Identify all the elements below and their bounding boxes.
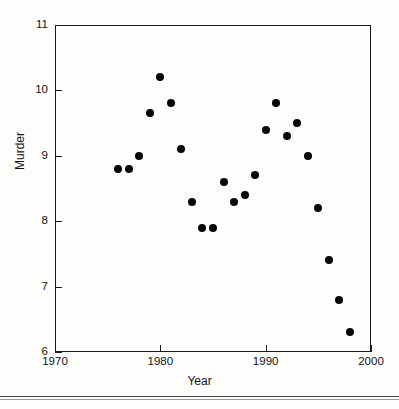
- data-point: [188, 198, 196, 206]
- data-point: [125, 165, 133, 173]
- y-axis-tick: [55, 352, 62, 353]
- x-axis-tick: [160, 345, 161, 352]
- y-axis-tick: [55, 90, 62, 91]
- data-point: [220, 178, 228, 186]
- x-axis-tick-label: 1970: [25, 356, 85, 368]
- data-point: [209, 224, 217, 232]
- y-axis-title: Murder: [13, 132, 27, 170]
- y-axis-tick: [55, 221, 62, 222]
- page-divider-rule-secondary: [0, 399, 399, 400]
- x-axis-tick-label: 2000: [341, 356, 399, 368]
- y-axis-tick-label: 8: [8, 215, 48, 227]
- x-axis-tick-label: 1990: [236, 356, 296, 368]
- data-point: [241, 191, 249, 199]
- data-point: [262, 126, 270, 134]
- x-axis-tick-label: 1980: [130, 356, 190, 368]
- x-axis-tick: [55, 345, 56, 352]
- y-axis-tick: [55, 156, 62, 157]
- data-point: [283, 132, 291, 140]
- y-axis-tick: [55, 287, 62, 288]
- data-point: [304, 152, 312, 160]
- scatter-plot-figure: 111098761970198019902000 Murder Year: [0, 0, 399, 409]
- x-axis-title: Year: [0, 374, 399, 388]
- page-divider-rule: [0, 396, 399, 397]
- x-axis-tick: [266, 345, 267, 352]
- y-axis-tick: [55, 25, 62, 26]
- plot-area-frame: [55, 25, 371, 352]
- data-point: [230, 198, 238, 206]
- x-axis-tick: [371, 345, 372, 352]
- y-axis-tick-label: 10: [8, 84, 48, 96]
- y-axis-tick-label: 11: [8, 19, 48, 31]
- y-axis-tick-label: 7: [8, 281, 48, 293]
